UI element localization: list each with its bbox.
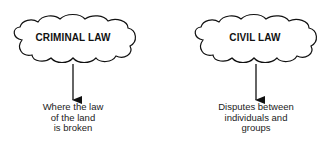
civil-law-title: CIVIL LAW	[202, 32, 308, 43]
criminal-law-title: CRIMINAL LAW	[20, 32, 126, 43]
description-line: Disputes between	[203, 102, 309, 113]
description-line: groups	[203, 123, 309, 134]
description-line: is broken	[20, 123, 126, 134]
criminal-law-description: Where the law of the land is broken	[20, 102, 126, 134]
civil-law-description: Disputes between individuals and groups	[203, 102, 309, 134]
description-line: Where the law	[20, 102, 126, 113]
